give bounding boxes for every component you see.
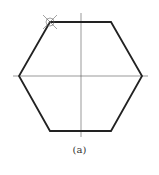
figure-caption: (a) xyxy=(0,144,159,155)
hexagon-outline xyxy=(19,22,142,131)
